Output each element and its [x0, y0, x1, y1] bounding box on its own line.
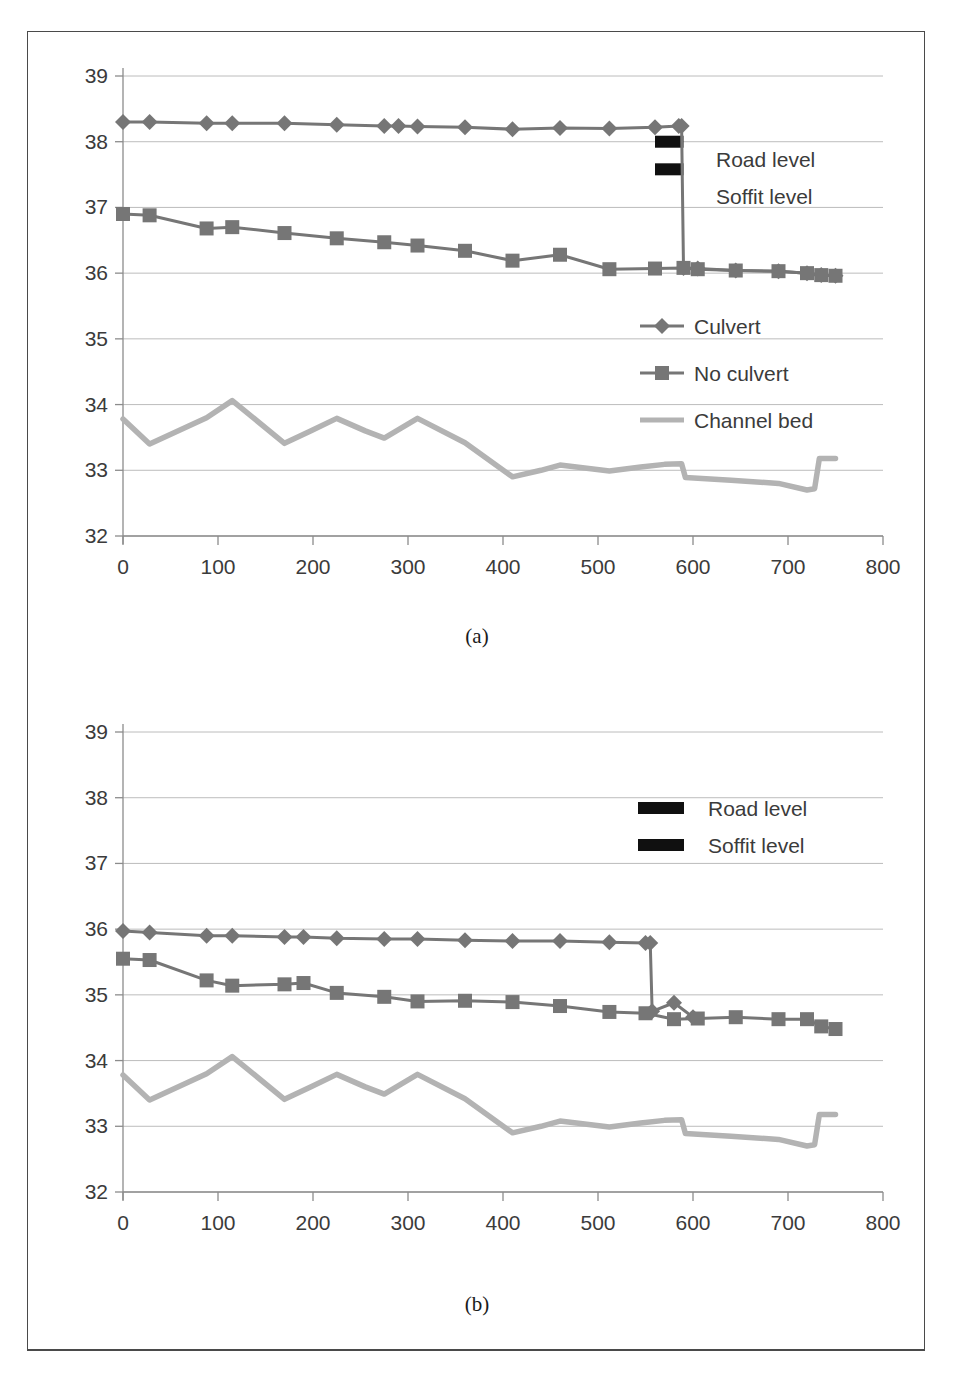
x-tick-label: 500: [580, 1211, 615, 1234]
square-marker-icon: [729, 264, 743, 278]
square-marker-icon: [691, 262, 705, 276]
square-marker-icon: [639, 1006, 653, 1020]
x-tick-label: 0: [117, 1211, 129, 1234]
square-marker-icon: [829, 1022, 843, 1036]
y-tick-label: 34: [85, 393, 109, 416]
square-marker-icon: [772, 264, 786, 278]
x-tick-label: 300: [390, 555, 425, 578]
diamond-marker-icon: [329, 117, 345, 133]
square-marker-icon: [800, 1012, 814, 1026]
diamond-marker-icon: [505, 121, 521, 137]
y-tick-label: 36: [85, 261, 108, 284]
diamond-marker-icon: [654, 318, 670, 334]
y-tick-label: 36: [85, 917, 108, 940]
y-tick-label: 37: [85, 851, 108, 874]
square-marker-icon: [330, 986, 344, 1000]
caption-b: (b): [28, 1292, 926, 1317]
diamond-marker-icon: [601, 934, 617, 950]
x-tick-label: 400: [485, 555, 520, 578]
square-marker-icon: [278, 226, 292, 240]
diamond-marker-icon: [457, 932, 473, 948]
square-marker-icon: [814, 1019, 828, 1033]
square-marker-icon: [225, 220, 239, 234]
square-marker-icon: [667, 1012, 681, 1026]
square-marker-icon: [829, 269, 843, 283]
chart-a-svg: 3233343536373839010020030040050060070080…: [28, 36, 926, 626]
x-tick-label: 200: [295, 1211, 330, 1234]
black-bar-icon: [655, 163, 684, 175]
diamond-marker-icon: [410, 931, 426, 947]
square-marker-icon: [458, 244, 472, 258]
y-tick-label: 38: [85, 786, 108, 809]
x-tick-label: 300: [390, 1211, 425, 1234]
diamond-marker-icon: [199, 115, 215, 131]
diamond-marker-icon: [552, 933, 568, 949]
square-marker-icon: [143, 208, 157, 222]
legend-label: Culvert: [694, 315, 761, 338]
x-tick-label: 800: [865, 1211, 900, 1234]
diamond-marker-icon: [391, 118, 407, 134]
square-marker-icon: [225, 979, 239, 993]
diamond-marker-icon: [376, 118, 392, 134]
chart-b-plot: 3233343536373839010020030040050060070080…: [28, 692, 926, 1282]
chart-panel-a: 3233343536373839010020030040050060070080…: [28, 36, 926, 676]
legend-label: Road level: [708, 797, 807, 820]
bottom-rule: [28, 1349, 924, 1351]
diamond-marker-icon: [115, 114, 131, 130]
chart-b-svg: 3233343536373839010020030040050060070080…: [28, 692, 926, 1282]
annotation-road-level-label: Road level: [716, 148, 815, 171]
annotation-soffit-level-label: Soffit level: [716, 185, 813, 208]
y-tick-label: 33: [85, 1114, 108, 1137]
legend-label: No culvert: [694, 362, 789, 385]
y-tick-label: 32: [85, 1180, 108, 1203]
square-marker-icon: [506, 995, 520, 1009]
x-tick-label: 500: [580, 555, 615, 578]
square-marker-icon: [200, 221, 214, 235]
diamond-marker-icon: [224, 928, 240, 944]
diamond-marker-icon: [674, 118, 690, 134]
square-marker-icon: [553, 999, 567, 1013]
y-tick-label: 32: [85, 524, 108, 547]
diamond-marker-icon: [224, 115, 240, 131]
y-tick-label: 37: [85, 195, 108, 218]
x-tick-label: 700: [770, 555, 805, 578]
square-marker-icon: [691, 1012, 705, 1026]
square-marker-icon: [814, 268, 828, 282]
x-tick-label: 600: [675, 1211, 710, 1234]
diamond-marker-icon: [505, 933, 521, 949]
diamond-marker-icon: [199, 928, 215, 944]
diamond-marker-icon: [142, 114, 158, 130]
diamond-marker-icon: [457, 119, 473, 135]
diamond-marker-icon: [296, 929, 312, 945]
diamond-marker-icon: [552, 120, 568, 136]
diamond-marker-icon: [115, 923, 131, 939]
x-tick-label: 600: [675, 555, 710, 578]
legend-label: Channel bed: [694, 409, 813, 432]
square-marker-icon: [729, 1010, 743, 1024]
x-tick-label: 800: [865, 555, 900, 578]
square-marker-icon: [602, 1005, 616, 1019]
square-marker-icon: [800, 266, 814, 280]
y-tick-label: 35: [85, 983, 108, 1006]
chart-panel-b: 3233343536373839010020030040050060070080…: [28, 692, 926, 1342]
square-marker-icon: [116, 207, 130, 221]
square-marker-icon: [553, 248, 567, 262]
diamond-marker-icon: [329, 930, 345, 946]
diamond-marker-icon: [601, 121, 617, 137]
black-bar-icon: [655, 136, 684, 148]
legend-label: Soffit level: [708, 834, 805, 857]
chart-a-plot: 3233343536373839010020030040050060070080…: [28, 36, 926, 626]
square-marker-icon: [411, 239, 425, 253]
series-line-no-culvert: [123, 959, 836, 1029]
figure-frame: 3233343536373839010020030040050060070080…: [27, 31, 925, 1351]
square-marker-icon: [377, 990, 391, 1004]
x-tick-label: 100: [200, 555, 235, 578]
square-marker-icon: [677, 261, 691, 275]
black-bar-icon: [638, 802, 684, 814]
square-marker-icon: [200, 973, 214, 987]
diamond-marker-icon: [142, 924, 158, 940]
x-tick-label: 400: [485, 1211, 520, 1234]
diamond-marker-icon: [376, 931, 392, 947]
y-tick-label: 39: [85, 64, 108, 87]
y-tick-label: 38: [85, 130, 108, 153]
